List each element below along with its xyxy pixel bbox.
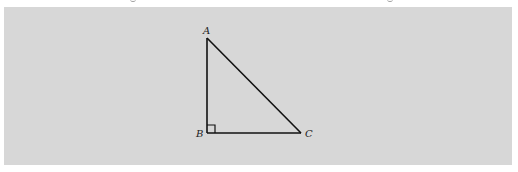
vertex-label-a: A [202,25,210,36]
vertex-label-b: B [195,128,203,139]
vertex-label-c: C [305,128,313,139]
right-angle-marker-icon [207,125,215,133]
side-ac [207,38,301,133]
triangle-diagram: A B C [0,0,518,172]
triangle [207,38,301,133]
